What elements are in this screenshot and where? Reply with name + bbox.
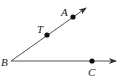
- point-T: [44, 32, 49, 37]
- label-A: A: [60, 6, 68, 18]
- label-B: B: [1, 56, 8, 68]
- label-C: C: [88, 66, 96, 78]
- label-T: T: [37, 23, 44, 35]
- point-A: [70, 14, 75, 19]
- angle-diagram: B T A C: [0, 0, 122, 78]
- point-C: [89, 58, 94, 63]
